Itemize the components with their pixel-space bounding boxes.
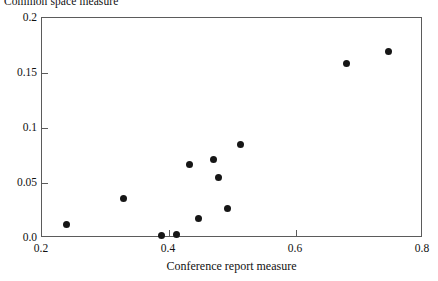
y-axis-tick-label: 0.05 <box>1 176 37 188</box>
data-point <box>210 156 217 163</box>
data-point <box>158 232 165 239</box>
x-axis-tick-label: 0.4 <box>148 242 188 254</box>
x-axis-label: Conference report measure <box>41 259 422 274</box>
y-axis-tick-label: 0.15 <box>1 66 37 78</box>
data-point <box>186 161 193 168</box>
data-point <box>215 174 222 181</box>
plot-frame <box>41 17 422 237</box>
scatter-plot-figure: Common space measure 0.00.050.10.150.2 0… <box>0 0 438 281</box>
y-axis-tick-label: 0.2 <box>1 11 37 23</box>
x-axis-tick-label: 0.2 <box>21 242 61 254</box>
y-axis-tick-label: 0.1 <box>1 121 37 133</box>
data-point <box>173 231 180 238</box>
data-point <box>237 141 244 148</box>
data-point <box>63 221 70 228</box>
y-axis-tick <box>42 183 48 184</box>
data-point <box>120 195 127 202</box>
data-point <box>195 215 202 222</box>
y-axis-tick <box>42 73 48 74</box>
x-axis-tick <box>169 230 170 236</box>
x-axis-tick-label: 0.8 <box>402 242 438 254</box>
x-axis-tick <box>296 230 297 236</box>
page-title: Common space measure <box>4 0 118 7</box>
plot-area <box>42 18 421 236</box>
data-point <box>385 48 392 55</box>
x-axis-tick-label: 0.6 <box>275 242 315 254</box>
data-point <box>224 205 231 212</box>
y-axis-tick <box>42 128 48 129</box>
data-point <box>343 60 350 67</box>
